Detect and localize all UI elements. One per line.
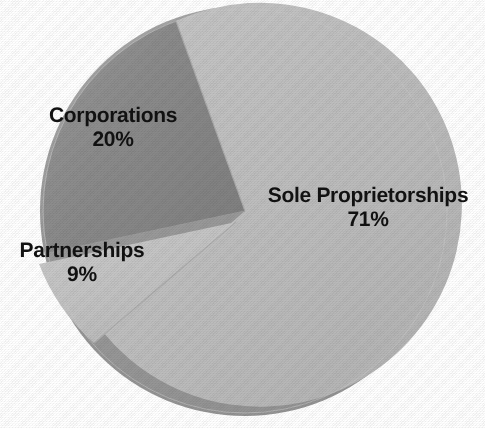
slice-label-partnerships: Partnerships 9% — [2, 239, 162, 286]
slice-label-partnerships-name: Partnerships — [2, 239, 162, 263]
slice-label-sole-proprietorships-name: Sole Proprietorships — [252, 184, 484, 208]
slice-label-corporations: Corporations 20% — [22, 104, 204, 151]
slice-label-partnerships-value: 9% — [2, 263, 162, 287]
slice-label-corporations-name: Corporations — [22, 104, 204, 128]
pie-chart-figure: Corporations 20% Partnerships 9% Sole Pr… — [0, 0, 485, 428]
slice-label-sole-proprietorships-value: 71% — [252, 208, 484, 232]
slice-label-sole-proprietorships: Sole Proprietorships 71% — [252, 184, 484, 231]
slice-label-corporations-value: 20% — [22, 128, 204, 152]
